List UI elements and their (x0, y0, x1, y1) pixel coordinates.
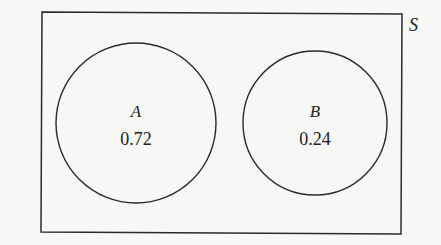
set-a-probability: 0.72 (120, 129, 152, 149)
venn-diagram: S A 0.72 B 0.24 (0, 0, 441, 245)
set-b-label: B (310, 102, 321, 121)
sample-space-rectangle (41, 12, 402, 234)
set-a-label: A (130, 102, 142, 121)
sample-space-label: S (409, 15, 418, 35)
set-b-circle (243, 51, 387, 195)
set-a-circle (56, 43, 216, 203)
set-b-probability: 0.24 (299, 129, 331, 149)
